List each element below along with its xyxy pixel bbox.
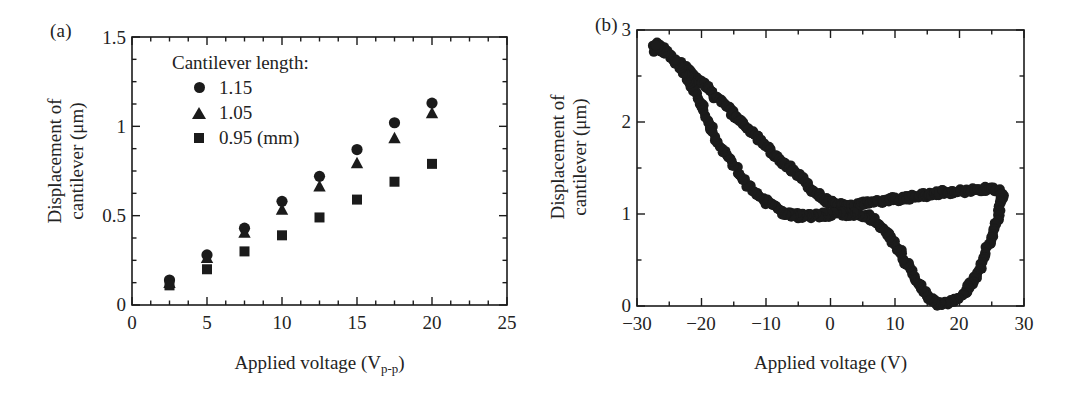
data-point-square xyxy=(315,212,325,222)
data-point-square xyxy=(165,280,175,290)
figure-root: (a) Displacement of cantilever (μm) Appl… xyxy=(0,0,1065,398)
data-point-triangle xyxy=(276,203,288,214)
data-point-square xyxy=(390,177,400,187)
data-point-triangle xyxy=(351,157,363,168)
data-point-triangle xyxy=(313,180,325,191)
panel-b: (b) Displacement of cantilever (μm) Appl… xyxy=(533,0,1065,398)
data-point-circle xyxy=(651,40,661,50)
data-point-square xyxy=(427,159,437,169)
data-point-circle xyxy=(351,144,362,155)
data-point-square xyxy=(277,230,287,240)
panel-a: (a) Displacement of cantilever (μm) Appl… xyxy=(0,0,533,398)
panel-a-plot-area xyxy=(0,0,533,398)
panel-b-plot-area xyxy=(533,0,1065,398)
data-point-circle xyxy=(389,117,400,128)
data-point-triangle xyxy=(388,132,400,143)
data-point-square xyxy=(240,246,250,256)
data-point-square xyxy=(352,195,362,205)
data-point-triangle xyxy=(426,107,438,118)
data-point-square xyxy=(202,264,212,274)
